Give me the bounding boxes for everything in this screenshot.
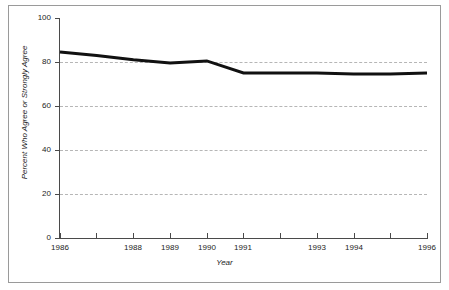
x-tick-label-1986: 1986: [40, 243, 80, 252]
y-tick-mark-20: [55, 194, 60, 195]
y-tick-mark-40: [55, 150, 60, 151]
y-tick-mark-80: [55, 62, 60, 63]
y-tick-mark-100: [55, 18, 60, 19]
x-tick-label-1991: 1991: [223, 243, 263, 252]
gridline-20: [60, 194, 427, 195]
y-tick-label-20: 20: [11, 190, 51, 198]
y-axis-line: [59, 18, 60, 239]
x-tick-mark-1987: [96, 233, 97, 239]
x-tick-label-1990: 1990: [187, 243, 227, 252]
y-axis-title: Percent Who Agree or Strongly Agree: [20, 13, 29, 213]
x-tick-mark-1989: [170, 233, 171, 239]
chart-figure: 100 80 60 40 20 0 1986 1988 1989 1990 19…: [0, 0, 449, 290]
y-tick-label-0: 0: [11, 234, 51, 242]
x-tick-mark-1994: [354, 233, 355, 239]
y-tick-mark-60: [55, 106, 60, 107]
figure-border: [8, 5, 441, 283]
y-tick-label-100: 100: [11, 14, 51, 22]
x-tick-label-1996: 1996: [407, 243, 447, 252]
x-tick-label-1994: 1994: [334, 243, 374, 252]
x-tick-mark-1986: [60, 233, 61, 239]
x-tick-mark-1993: [317, 233, 318, 239]
x-tick-mark-1996: [427, 233, 428, 239]
x-tick-label-1993: 1993: [297, 243, 337, 252]
x-tick-mark-1995: [390, 233, 391, 239]
x-tick-mark-1988: [133, 233, 134, 239]
x-tick-mark-1992: [280, 233, 281, 239]
y-tick-label-40: 40: [11, 146, 51, 154]
y-tick-label-60: 60: [11, 102, 51, 110]
x-tick-mark-1990: [207, 233, 208, 239]
x-tick-mark-1991: [243, 233, 244, 239]
x-tick-label-1988: 1988: [113, 243, 153, 252]
gridline-40: [60, 150, 427, 151]
y-tick-label-80: 80: [11, 58, 51, 66]
gridline-60: [60, 106, 427, 107]
x-axis-title: Year: [0, 258, 449, 267]
gridline-80: [60, 62, 427, 63]
x-tick-label-1989: 1989: [150, 243, 190, 252]
